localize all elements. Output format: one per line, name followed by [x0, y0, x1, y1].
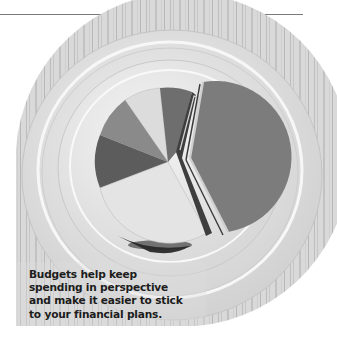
caption-line: to your financial plans. — [29, 308, 199, 321]
caption-line: Budgets help keep — [29, 268, 199, 281]
caption-line: spending in perspective — [29, 281, 199, 294]
photo-caption: Budgets help keep spending in perspectiv… — [29, 268, 199, 321]
caption-line: and make it easier to stick — [29, 294, 199, 307]
